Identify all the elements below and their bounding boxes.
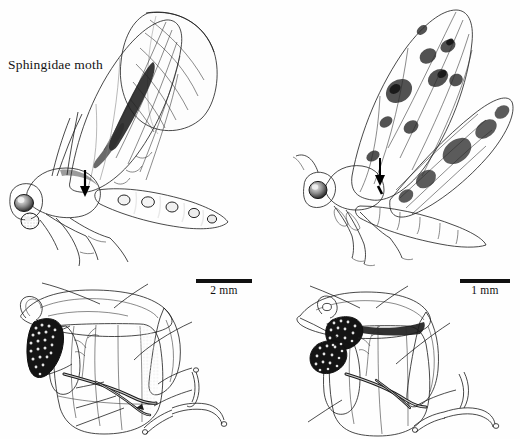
sphingidae-moth-title: Sphingidae moth bbox=[8, 57, 103, 73]
scale-bar-left-caption: 2 mm bbox=[196, 284, 252, 296]
figure-root: Sphingidae moth bbox=[0, 0, 520, 439]
panel-noctuid-illustration: Noctuid moth bbox=[260, 0, 520, 268]
scale-bar-right-line bbox=[460, 279, 510, 283]
noctuid-moth-drawing bbox=[260, 0, 520, 268]
scale-bar-left-line bbox=[196, 279, 252, 283]
panel-sphingidae-illustration: Sphingidae moth bbox=[0, 0, 260, 268]
scale-bar-right-caption: 1 mm bbox=[460, 284, 510, 296]
scale-bar-right: 1 mm bbox=[460, 279, 510, 296]
sphingidae-moth-drawing bbox=[0, 0, 260, 268]
arrow-annotation-noctuid bbox=[375, 158, 385, 194]
scale-bar-left: 2 mm bbox=[196, 279, 252, 296]
